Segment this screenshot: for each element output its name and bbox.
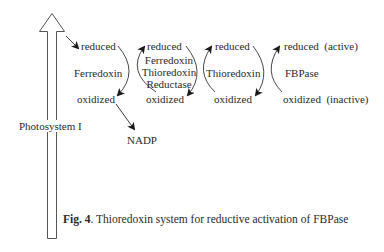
ferredoxin-label: Ferredoxin <box>74 67 122 79</box>
ferredoxin-oxidized-label: oxidized <box>77 93 115 105</box>
ftr-label-line-3: Reductase <box>137 78 201 90</box>
ferredoxin-to-nadp-arrow-icon <box>116 104 134 129</box>
ftr-label: Ferredoxin Thioredoxin Reductase <box>137 54 201 90</box>
ftr-label-line-1: Ferredoxin <box>137 54 201 66</box>
ps-to-ferredoxin-arrow-icon <box>66 36 78 48</box>
thioredoxin-reduced-label: reduced <box>215 40 250 52</box>
fbpase-reduced-label: reduced (active) <box>284 40 358 52</box>
ftr-label-line-2: Thioredoxin <box>137 66 201 78</box>
fbpase-oxidized-label: oxidized (inactive) <box>283 93 369 105</box>
thioredoxin-oxidized-label: oxidized <box>214 93 252 105</box>
fbpase-label: FBPase <box>285 67 319 79</box>
ferredoxin-reduced-label: reduced <box>81 40 116 52</box>
figure-caption: Fig. 4. Thioredoxin system for reductive… <box>63 213 348 225</box>
figure-number: Fig. 4 <box>63 213 90 225</box>
photosystem-label: Photosystem I <box>18 120 83 132</box>
thioredoxin-label: Thioredoxin <box>206 67 260 79</box>
figure-caption-text: . Thioredoxin system for reductive activ… <box>90 213 348 225</box>
nadp-label: NADP <box>127 134 157 146</box>
ftr-reduced-label: reduced <box>147 40 182 52</box>
fbpase-reduction-arc-icon <box>271 47 282 92</box>
ftr-oxidized-label: oxidized <box>146 93 184 105</box>
